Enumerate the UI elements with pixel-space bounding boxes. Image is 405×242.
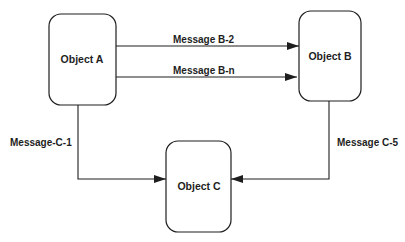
edge-label-message-b-2: Message B-2 bbox=[173, 34, 234, 45]
edge-label-message-c-5: Message C-5 bbox=[337, 137, 398, 148]
object-a-label: Object A bbox=[61, 53, 104, 65]
edge-label-message-c-1: Message-C-1 bbox=[10, 137, 72, 148]
arrow-message-c-1 bbox=[78, 105, 166, 179]
arrow-message-c-5 bbox=[231, 101, 329, 179]
object-c-label: Object C bbox=[177, 180, 220, 192]
edge-label-message-b-n: Message B-n bbox=[173, 65, 235, 76]
object-b-label: Object B bbox=[308, 50, 351, 62]
